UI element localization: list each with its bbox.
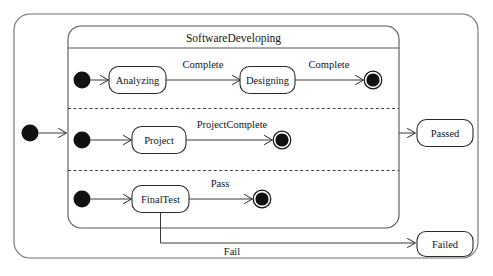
initial-state-node-entry xyxy=(22,125,39,142)
transition-label-project-complete: ProjectComplete xyxy=(197,119,268,130)
state-designing-label: Designing xyxy=(246,75,290,86)
transition-label-fail: Fail xyxy=(224,246,240,257)
transition-label-pass: Pass xyxy=(211,178,230,189)
initial-state-node-finaltest xyxy=(74,191,91,208)
transition-label-complete-final: Complete xyxy=(309,59,350,70)
transition-label-complete-design: Complete xyxy=(183,59,224,70)
state-diagram-canvas: SoftwareDeveloping Analyzing Complete De… xyxy=(0,0,493,276)
initial-state-node-project xyxy=(74,132,91,149)
state-project-label: Project xyxy=(144,135,174,146)
final-state-node-analysis xyxy=(366,73,379,86)
state-diagram: SoftwareDeveloping Analyzing Complete De… xyxy=(0,0,493,276)
state-passed-label: Passed xyxy=(431,128,460,139)
composite-state-title: SoftwareDeveloping xyxy=(186,32,281,45)
final-state-node-project xyxy=(275,133,288,146)
initial-state-node-analyzing xyxy=(74,72,91,89)
state-finaltest-label: FinalTest xyxy=(141,194,180,205)
final-state-node-finaltest xyxy=(255,192,268,205)
state-failed-label: Failed xyxy=(432,239,459,250)
state-analyzing-label: Analyzing xyxy=(116,75,160,86)
